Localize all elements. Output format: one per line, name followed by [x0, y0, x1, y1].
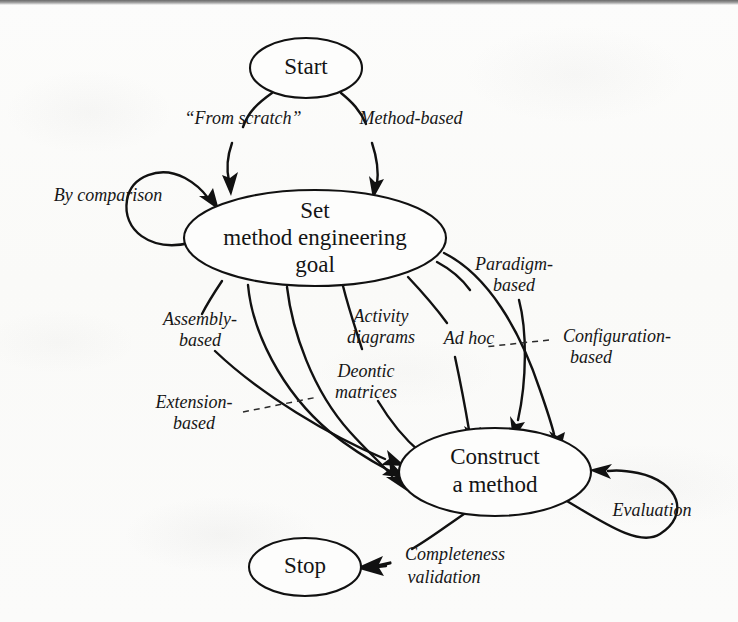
edge-ad-hoc-seg1 — [408, 277, 447, 323]
edge-label-paradigm-based-line1: Paradigm- — [474, 254, 553, 274]
edge-label-configuration-based-line2: based — [570, 347, 613, 367]
edge-paradigm-based-seg2 — [518, 300, 525, 420]
edge-label-extension-based-line2: based — [173, 413, 216, 433]
node-set-goal-label-line3: goal — [295, 252, 335, 277]
edge-activity-diagrams-seg2 — [378, 401, 420, 452]
edge-ad-hoc-seg2 — [455, 357, 469, 430]
edge-label-deontic-matrices-line1: Deontic — [337, 361, 395, 381]
node-construct-method-label-line1: Construct — [450, 444, 540, 469]
node-stop[interactable]: Stop — [249, 538, 361, 596]
edge-ad-hoc — [408, 277, 481, 448]
edge-label-method-based: Method-based — [359, 108, 464, 128]
edge-label-by-comparison: By comparison — [54, 185, 162, 205]
node-construct-method-label-line2: a method — [453, 472, 538, 497]
edge-label-assembly-based-line1: Assembly- — [162, 309, 237, 329]
node-start-label: Start — [284, 54, 328, 79]
edge-label-activity-diagrams-line2: diagrams — [347, 327, 415, 347]
node-set-goal-label-line1: Set — [300, 198, 330, 223]
edge-label-evaluation: Evaluation — [612, 500, 692, 520]
edge-label-extension-based-line1: Extension- — [155, 392, 233, 412]
edge-label-paradigm-based-line2: based — [493, 275, 536, 295]
edge-label-validation-line2: validation — [408, 567, 481, 587]
edge-method-based-lower — [372, 143, 378, 184]
diagram-canvas: Start Set method engineering goal Constr… — [0, 0, 738, 622]
edge-label-assembly-based-line2: based — [179, 330, 222, 350]
process-flowchart: Start Set method engineering goal Constr… — [0, 0, 738, 622]
node-stop-label: Stop — [284, 553, 326, 578]
node-construct-method[interactable]: Construct a method — [399, 428, 591, 516]
edge-label-configuration-based-line1: Configuration- — [563, 326, 671, 346]
edge-label-deontic-matrices-line2: matrices — [335, 382, 397, 402]
node-set-goal-label-line2: method engineering — [223, 225, 407, 250]
edge-label-activity-diagrams-line1: Activity — [353, 306, 409, 326]
edge-label-completeness-line1: Completeness — [405, 544, 505, 564]
edge-from-scratch-lower — [227, 143, 232, 181]
edge-from-scratch-arrowhead — [222, 172, 238, 196]
edge-label-ad-hoc: Ad hoc — [443, 328, 494, 348]
node-start[interactable]: Start — [250, 38, 362, 98]
node-set-goal[interactable]: Set method engineering goal — [184, 190, 446, 286]
edge-label-from-scratch: “From scratch” — [185, 108, 302, 128]
